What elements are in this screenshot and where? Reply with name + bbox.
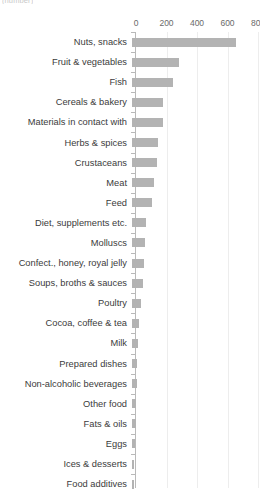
bar [132,359,137,368]
bar-row: Molluscs [0,233,260,253]
x-axis-tick-label: 400 [190,18,204,28]
bar-row: Food additives [0,474,260,494]
bar [132,319,139,328]
bar-cell [131,52,260,72]
category-label: Fruit & vegetables [0,57,131,67]
bar-cell [131,173,260,193]
bar [132,178,154,187]
bar-cell [131,313,260,333]
bar-cell [131,153,260,173]
bar-row: Materials in contact with [0,112,260,132]
x-axis-tick-label: 0 [134,18,139,28]
x-axis-tick-label: 600 [220,18,234,28]
bar [132,98,163,107]
bar-cell [131,32,260,52]
bar-rows: Nuts, snacksFruit & vegetablesFishCereal… [0,32,260,494]
category-label: Food additives [0,479,131,489]
category-label: Prepared dishes [0,359,131,369]
category-label: Ices & desserts [0,459,131,469]
bar [132,399,136,408]
bar-cell [131,213,260,233]
bar-cell [131,193,260,213]
bar-cell [131,434,260,454]
bar [132,218,146,227]
category-label: Other food [0,399,131,409]
bar-cell [131,354,260,374]
bar-row: Eggs [0,434,260,454]
bar-row: Crustaceans [0,153,260,173]
bar [132,138,158,147]
category-label: Diet, supplements etc. [0,218,131,228]
bar-cell [131,394,260,414]
x-axis-tick-labels: 0200400600800 [136,18,258,30]
bar-row: Fruit & vegetables [0,52,260,72]
bar-cell [131,72,260,92]
category-label: Nuts, snacks [0,37,131,47]
category-label: Milk [0,338,131,348]
bar-cell [131,293,260,313]
bar-row: Cereals & bakery [0,92,260,112]
category-label: Eggs [0,439,131,449]
category-label: Confect., honey, royal jelly [0,258,131,268]
bar-cell [131,474,260,494]
bar-cell [131,454,260,474]
category-label: Fish [0,77,131,87]
category-label: Materials in contact with [0,117,131,127]
category-label: Molluscs [0,238,131,248]
category-label: Cocoa, coffee & tea [0,318,131,328]
bar [132,439,135,448]
category-label: Crustaceans [0,158,131,168]
bar-cell [131,333,260,353]
category-label: Poultry [0,298,131,308]
bar-cell [131,132,260,152]
bar [132,279,143,288]
bar [132,259,144,268]
x-axis-tick-label: 800 [251,18,260,28]
category-label: Feed [0,198,131,208]
bar [132,118,163,127]
bar-cell [131,112,260,132]
bar-row: Milk [0,333,260,353]
x-axis-tick-label: 200 [159,18,173,28]
bar-cell [131,273,260,293]
caption-fragment: (number) [2,0,33,4]
bar-row: Confect., honey, royal jelly [0,253,260,273]
category-label: Herbs & spices [0,138,131,148]
bar-row: Poultry [0,293,260,313]
bar [132,58,179,67]
bar [132,299,141,308]
bar [132,480,134,489]
bar [132,419,136,428]
bar-row: Feed [0,193,260,213]
bar-row: Ices & desserts [0,454,260,474]
bar-cell [131,253,260,273]
bar-row: Diet, supplements etc. [0,213,260,233]
bar-cell [131,92,260,112]
bar [132,460,134,469]
category-label: Meat [0,178,131,188]
bar [132,379,137,388]
bar [132,198,152,207]
bar [132,238,145,247]
bar-row: Non-alcoholic beverages [0,374,260,394]
bar [132,78,173,87]
bar [132,38,236,47]
bar-chart-figure: (number) 0200400600800 Nuts, snacksFruit… [0,0,260,499]
bar-row: Fish [0,72,260,92]
bar-row: Other food [0,394,260,414]
bar [132,339,138,348]
bar [132,158,157,167]
bar-cell [131,233,260,253]
bar-row: Soups, broths & sauces [0,273,260,293]
category-label: Cereals & bakery [0,97,131,107]
bar-cell [131,414,260,434]
bar-row: Fats & oils [0,414,260,434]
category-label: Fats & oils [0,419,131,429]
bar-row: Prepared dishes [0,354,260,374]
bar-row: Nuts, snacks [0,32,260,52]
category-label: Non-alcoholic beverages [0,379,131,389]
bar-row: Meat [0,173,260,193]
bar-cell [131,374,260,394]
category-label: Soups, broths & sauces [0,278,131,288]
bar-row: Herbs & spices [0,132,260,152]
